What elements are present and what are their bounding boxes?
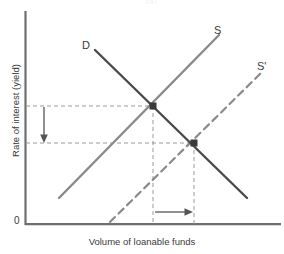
demand-curve-label: D — [82, 39, 90, 51]
guide-lines — [26, 106, 194, 224]
demand-curve-d — [95, 50, 247, 198]
origin-label: 0 — [14, 215, 20, 226]
volume-increase-arrow — [155, 208, 193, 216]
x-axis-label: Volume of loanable funds — [0, 236, 284, 247]
supply-curve-s — [59, 35, 219, 198]
supply-curve-prime-label: S' — [257, 60, 266, 72]
initial-equilibrium-marker — [150, 103, 157, 110]
supply-demand-chart — [0, 0, 284, 254]
rate-decrease-arrow — [40, 107, 48, 143]
supply-curve-s-prime — [110, 72, 262, 222]
new-equilibrium-marker — [191, 140, 198, 147]
y-axis-label: Rate of interest (yield) — [10, 45, 21, 177]
supply-curve-label: S — [214, 24, 221, 36]
